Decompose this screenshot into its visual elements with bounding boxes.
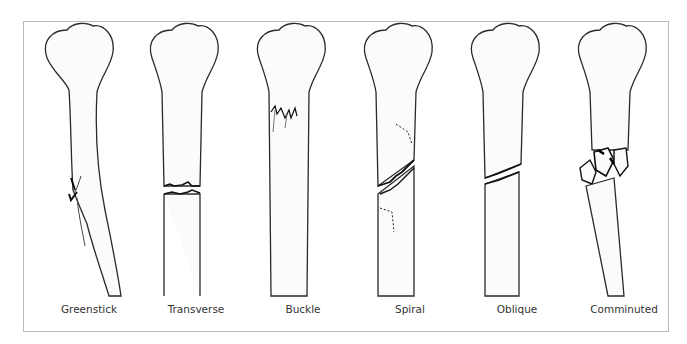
- transverse-bone-icon: [142, 0, 250, 344]
- bone-spiral: [356, 0, 464, 344]
- label-greenstick: Greenstick: [35, 303, 143, 315]
- bone-comminuted: [570, 0, 678, 344]
- bone-greenstick: [35, 0, 143, 344]
- greenstick-bone-icon: [35, 0, 143, 344]
- bone-transverse: [142, 0, 250, 344]
- label-comminuted: Comminuted: [570, 303, 678, 315]
- bone-buckle: [249, 0, 357, 344]
- label-buckle: Buckle: [249, 303, 357, 315]
- spiral-bone-icon: [356, 0, 464, 344]
- comminuted-bone-icon: [570, 0, 678, 344]
- label-spiral: Spiral: [356, 303, 464, 315]
- label-transverse: Transverse: [142, 303, 250, 315]
- buckle-bone-icon: [249, 0, 357, 344]
- bone-oblique: [463, 0, 571, 344]
- label-oblique: Oblique: [463, 303, 571, 315]
- oblique-bone-icon: [463, 0, 571, 344]
